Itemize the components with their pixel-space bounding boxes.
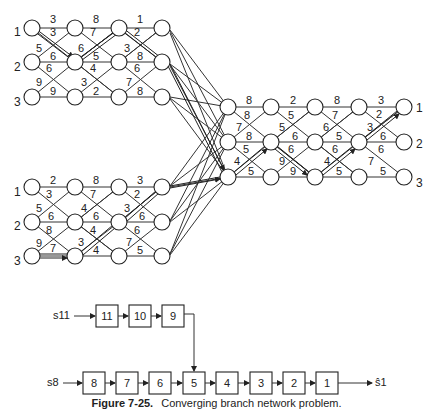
node bbox=[67, 54, 83, 70]
node bbox=[351, 99, 367, 115]
row-label: 2 bbox=[14, 219, 21, 233]
node bbox=[111, 248, 127, 264]
main-input-label: s8 bbox=[47, 376, 59, 388]
cost-label: 6 bbox=[48, 210, 54, 222]
row-label: 1 bbox=[14, 25, 21, 39]
cost-label: 5 bbox=[279, 121, 285, 133]
cost-label: 5 bbox=[336, 165, 342, 177]
cost-label: 3 bbox=[78, 236, 84, 248]
cost-label: 2 bbox=[134, 26, 140, 38]
cost-label: 2 bbox=[50, 174, 56, 186]
node bbox=[307, 169, 323, 185]
node bbox=[351, 169, 367, 185]
cost-label: 7 bbox=[332, 109, 338, 121]
cost-label: 6 bbox=[380, 130, 386, 142]
cost-label: 5 bbox=[288, 109, 294, 121]
cost-label: 6 bbox=[93, 210, 99, 222]
cost-label: 3 bbox=[50, 13, 56, 25]
stage-label: 7 bbox=[124, 377, 130, 389]
node bbox=[24, 54, 40, 70]
node bbox=[24, 20, 40, 36]
cost-label: 4 bbox=[93, 244, 99, 256]
node bbox=[263, 99, 279, 115]
cost-label: 4 bbox=[90, 62, 96, 74]
cost-label: 5 bbox=[93, 50, 99, 62]
cost-label: 7 bbox=[236, 121, 242, 133]
node bbox=[111, 20, 127, 36]
node bbox=[67, 20, 83, 36]
row-label: 1 bbox=[416, 101, 423, 115]
stage-label: 8 bbox=[91, 377, 97, 389]
cost-label: 8 bbox=[137, 85, 143, 97]
row-label: 3 bbox=[14, 254, 21, 268]
cost-label: 5 bbox=[336, 130, 342, 142]
cost-label: 4 bbox=[324, 155, 330, 167]
node bbox=[24, 214, 40, 230]
stage-label: 2 bbox=[291, 377, 297, 389]
node bbox=[220, 99, 236, 115]
cost-label: 6 bbox=[288, 143, 294, 155]
node bbox=[67, 89, 83, 105]
stage-label: 4 bbox=[224, 377, 230, 389]
node bbox=[67, 248, 83, 264]
row-label: 1 bbox=[14, 185, 21, 199]
cost-label: 3 bbox=[367, 121, 373, 133]
row-label: 3 bbox=[416, 176, 423, 190]
converging-edges bbox=[168, 30, 228, 255]
cost-label: 5 bbox=[243, 143, 249, 155]
node bbox=[154, 89, 170, 105]
cost-label: 2 bbox=[290, 94, 296, 106]
node bbox=[154, 214, 170, 230]
cost-label: 8 bbox=[46, 224, 52, 236]
stage-label: 5 bbox=[191, 377, 197, 389]
node bbox=[220, 169, 236, 185]
cost-label: 6 bbox=[78, 42, 84, 54]
cost-label: 6 bbox=[378, 143, 384, 155]
cost-label: 3 bbox=[124, 42, 130, 54]
figure-caption: Figure 7-25.Converging branch network pr… bbox=[0, 397, 433, 409]
cost-label: 6 bbox=[292, 130, 298, 142]
row-label: 3 bbox=[14, 95, 21, 109]
node bbox=[263, 134, 279, 150]
cost-label: 3 bbox=[378, 94, 384, 106]
bottom-left-network: 1 2 3 2 8 3 6 6 6 7 4 5 3 7 2 8 4 6 5 4 … bbox=[14, 174, 170, 268]
node bbox=[111, 179, 127, 195]
cost-label: 2 bbox=[134, 188, 140, 200]
node bbox=[111, 214, 127, 230]
cost-label: 8 bbox=[244, 109, 250, 121]
cost-label: 5 bbox=[248, 165, 254, 177]
node bbox=[154, 248, 170, 264]
cost-label: 9 bbox=[36, 76, 42, 88]
cost-label: 7 bbox=[90, 26, 96, 38]
cost-label: 8 bbox=[334, 94, 340, 106]
node bbox=[154, 179, 170, 195]
cost-label: 7 bbox=[50, 242, 56, 254]
node bbox=[351, 134, 367, 150]
cost-label: 9 bbox=[279, 155, 285, 167]
cost-label: 9 bbox=[36, 237, 42, 249]
block-diagram: s11 11 10 9 s8 8 7 6 5 4 3 2 1 bbox=[47, 305, 387, 394]
stage-label: 6 bbox=[157, 377, 163, 389]
cost-label: 6 bbox=[332, 143, 338, 155]
cost-label: 6 bbox=[134, 224, 140, 236]
node bbox=[24, 89, 40, 105]
right-network: 1 2 3 8 2 8 3 8 6 5 6 5 9 5 5 8 5 7 2 5 … bbox=[220, 94, 423, 190]
stage-label: 3 bbox=[258, 377, 264, 389]
top-left-network: 1 2 3 3 8 1 6 5 8 9 2 8 3 7 2 6 4 6 5 6 … bbox=[14, 13, 170, 109]
cost-label: 9 bbox=[290, 165, 296, 177]
cost-label: 4 bbox=[234, 155, 240, 167]
cost-label: 8 bbox=[93, 13, 99, 25]
node bbox=[24, 179, 40, 195]
cost-label: 6 bbox=[50, 50, 56, 62]
branch-input-label: s11 bbox=[53, 309, 70, 321]
node bbox=[307, 99, 323, 115]
node bbox=[111, 89, 127, 105]
cost-label: 5 bbox=[137, 244, 143, 256]
cost-label: 6 bbox=[323, 121, 329, 133]
cost-label: 3 bbox=[124, 202, 130, 214]
cost-label: 6 bbox=[46, 62, 52, 74]
cost-label: 2 bbox=[376, 108, 382, 120]
cost-label: 7 bbox=[126, 236, 132, 248]
node bbox=[263, 169, 279, 185]
stage-label: 10 bbox=[134, 310, 146, 322]
